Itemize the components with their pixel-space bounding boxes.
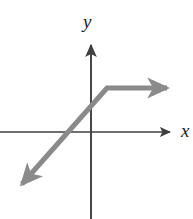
y-axis-label: y (83, 12, 91, 31)
plot-canvas (0, 0, 193, 219)
graph-figure: y x (0, 0, 193, 219)
function-curve (22, 88, 167, 184)
x-axis-label: x (181, 121, 189, 140)
